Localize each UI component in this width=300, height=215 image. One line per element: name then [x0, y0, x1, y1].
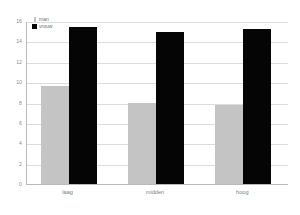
gridline: [27, 22, 288, 23]
bar-midden-vrouw: [156, 32, 184, 184]
x-axis-category-label: hoog: [236, 190, 248, 196]
legend-swatch-vrouw-icon: [32, 24, 37, 29]
bar-hoog-man: [215, 105, 243, 184]
legend-label: vrouw: [39, 24, 52, 29]
y-axis-tick-label: 16: [2, 19, 22, 24]
bar-midden-man: [128, 103, 156, 185]
x-axis-category-label: laag: [62, 190, 73, 196]
bar-laag-vrouw: [69, 27, 97, 184]
y-axis-tick-label: 2: [2, 162, 22, 167]
legend-label: man: [39, 17, 49, 22]
bar-hoog-vrouw: [243, 29, 271, 184]
x-axis-category-label: midden: [146, 190, 164, 196]
y-axis-tick-label: 14: [2, 40, 22, 45]
y-axis-tick-label: 12: [2, 60, 22, 65]
legend-item-man: man: [32, 17, 52, 22]
bar-laag-man: [41, 86, 69, 184]
bar-chart: 1614121086420 laagmiddenhoog manvrouw: [0, 0, 300, 215]
y-axis-tick-label: 6: [2, 121, 22, 126]
y-axis-tick-label: 0: [2, 182, 22, 187]
y-axis-tick-label: 4: [2, 142, 22, 147]
legend-item-vrouw: vrouw: [32, 24, 52, 29]
y-axis-tick-label: 10: [2, 81, 22, 86]
legend: manvrouw: [32, 17, 52, 29]
y-axis-tick-label: 8: [2, 101, 22, 106]
plot-area: [26, 22, 288, 185]
legend-swatch-man-icon: [32, 17, 37, 22]
